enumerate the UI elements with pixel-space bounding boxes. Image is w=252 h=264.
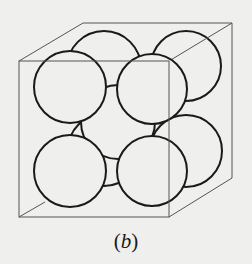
figure-caption: (b) (0, 229, 252, 254)
sphere-front-top-left (34, 51, 106, 123)
caption-close-paren: ) (131, 229, 138, 253)
sphere-front-bottom-left (34, 135, 106, 207)
sphere-front-top-right (117, 54, 187, 124)
bcc-unit-cell-diagram (0, 0, 252, 264)
caption-label: b (121, 229, 132, 253)
sphere-front-bottom-right (117, 136, 187, 206)
caption-open-paren: ( (114, 229, 121, 253)
